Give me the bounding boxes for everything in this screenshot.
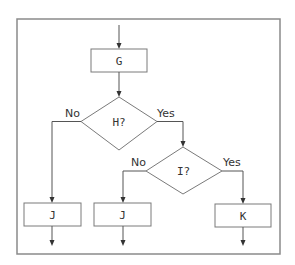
arrowhead-icon: [121, 240, 126, 246]
arrowhead-icon: [117, 91, 122, 97]
node-label-i: I?: [177, 165, 190, 178]
exit-arrow-k: [241, 227, 246, 246]
edge-i-yes: Yes: [222, 156, 246, 204]
node-label-g: G: [116, 55, 123, 68]
arrowhead-icon: [181, 141, 186, 147]
arrowhead-icon: [121, 197, 126, 203]
edge-h-no: No: [50, 107, 82, 203]
arrow-g-to-h: [117, 72, 122, 97]
edge-i-no: No: [121, 156, 147, 203]
entry-arrow: [117, 25, 122, 49]
decision-node-i: I?: [146, 147, 222, 194]
exit-arrow-j-middle: [121, 226, 126, 246]
node-label-j-left: J: [49, 209, 56, 222]
arrowhead-icon: [50, 240, 55, 246]
process-node-j-left: J: [24, 203, 81, 226]
edge-label-h-no: No: [65, 107, 80, 120]
exit-arrow-j-left: [50, 226, 55, 246]
node-label-h: H?: [112, 116, 125, 129]
arrowhead-icon: [50, 197, 55, 203]
process-node-g: G: [91, 49, 147, 72]
arrowhead-icon: [241, 240, 246, 246]
arrowhead-icon: [241, 198, 246, 204]
node-label-k: K: [240, 210, 247, 223]
decision-node-h: H?: [81, 97, 157, 150]
edge-label-h-yes: Yes: [156, 107, 175, 120]
arrowhead-icon: [117, 43, 122, 49]
flowchart-diagram: G H? No Yes I? No Yes J: [0, 0, 295, 265]
edge-label-i-no: No: [131, 156, 146, 169]
node-label-j-middle: J: [119, 209, 126, 222]
edge-label-i-yes: Yes: [222, 156, 241, 169]
process-node-k: K: [215, 204, 271, 227]
edge-h-yes: Yes: [156, 107, 186, 147]
process-node-j-middle: J: [94, 203, 151, 226]
